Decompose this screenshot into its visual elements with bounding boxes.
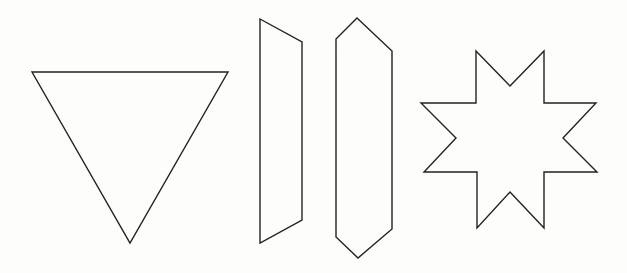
inverted-triangle-shape bbox=[32, 72, 228, 243]
parallelogram-shape bbox=[260, 19, 302, 243]
shapes-canvas bbox=[0, 0, 627, 273]
shapes-drawing bbox=[0, 0, 627, 273]
hexagon-shape bbox=[336, 18, 392, 258]
eight-pointed-star-shape bbox=[421, 51, 597, 228]
